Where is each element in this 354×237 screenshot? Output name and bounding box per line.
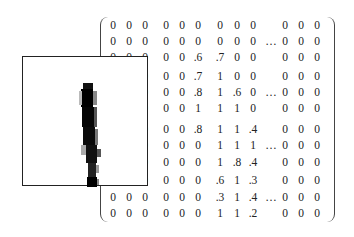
- digit-pixel: [81, 145, 86, 155]
- matrix-cell: 0: [310, 174, 324, 186]
- matrix-cell: 0: [278, 35, 292, 47]
- matrix-cell: 0: [310, 191, 324, 203]
- matrix-cell: 0: [310, 35, 324, 47]
- matrix-cell: 0: [159, 86, 173, 98]
- matrix-cell: 0: [278, 191, 292, 203]
- digit-pixel: [81, 89, 93, 107]
- matrix-ellipsis: …: [264, 139, 278, 151]
- matrix-cell: 0: [230, 70, 244, 82]
- matrix-cell: 0: [191, 35, 205, 47]
- matrix-cell: 0: [294, 156, 308, 168]
- matrix-right-bracket: [326, 17, 335, 222]
- matrix-cell: 0: [310, 207, 324, 219]
- digit-pixel: [97, 179, 99, 185]
- matrix-cell: 0: [278, 51, 292, 63]
- matrix-cell: 1: [246, 139, 260, 151]
- matrix-cell: 0: [191, 191, 205, 203]
- matrix-cell: 0: [175, 86, 189, 98]
- digit-image: [23, 57, 147, 185]
- matrix-cell: 0: [159, 102, 173, 114]
- matrix-cell: 1: [230, 123, 244, 135]
- matrix-cell: .8: [230, 156, 244, 168]
- matrix-cell: 1: [230, 174, 244, 186]
- digit-pixel: [88, 163, 96, 177]
- matrix-cell: 0: [294, 191, 308, 203]
- matrix-cell: 0: [310, 156, 324, 168]
- digit-pixel: [83, 127, 95, 145]
- matrix-cell: .7: [191, 70, 205, 82]
- matrix-cell: 0: [278, 174, 292, 186]
- matrix-cell: 1: [213, 86, 227, 98]
- matrix-cell: 0: [191, 139, 205, 151]
- matrix-ellipsis: …: [264, 86, 278, 98]
- matrix-cell: 0: [138, 19, 152, 31]
- matrix-cell: 0: [310, 102, 324, 114]
- matrix-cell: 0: [159, 174, 173, 186]
- matrix-cell: 0: [191, 207, 205, 219]
- matrix-cell: 0: [294, 51, 308, 63]
- matrix-cell: 0: [175, 191, 189, 203]
- matrix-cell: 0: [310, 70, 324, 82]
- matrix-cell: 0: [175, 35, 189, 47]
- matrix-cell: 1: [230, 191, 244, 203]
- matrix-cell: 0: [278, 139, 292, 151]
- matrix-cell: 1: [230, 102, 244, 114]
- matrix-cell: .6: [191, 51, 205, 63]
- matrix-cell: .4: [246, 156, 260, 168]
- matrix-cell: 0: [138, 191, 152, 203]
- matrix-cell: .6: [230, 86, 244, 98]
- matrix-cell: 0: [159, 207, 173, 219]
- matrix-cell: 1: [213, 102, 227, 114]
- matrix-cell: 1: [213, 139, 227, 151]
- matrix-cell: 0: [310, 19, 324, 31]
- matrix-cell: 0: [122, 207, 136, 219]
- matrix-cell: 0: [230, 35, 244, 47]
- matrix-cell: 0: [230, 19, 244, 31]
- matrix-cell: 0: [278, 156, 292, 168]
- matrix-cell: 0: [294, 123, 308, 135]
- matrix-cell: 0: [159, 70, 173, 82]
- matrix-cell: 0: [246, 19, 260, 31]
- matrix-cell: 0: [294, 102, 308, 114]
- matrix-cell: 1: [213, 70, 227, 82]
- matrix-cell: 0: [246, 70, 260, 82]
- digit-pixel: [82, 107, 94, 127]
- matrix-cell: 0: [294, 86, 308, 98]
- matrix-cell: 0: [246, 86, 260, 98]
- matrix-cell: 1: [191, 102, 205, 114]
- matrix-cell: 0: [278, 123, 292, 135]
- matrix-cell: 0: [294, 174, 308, 186]
- matrix-cell: 0: [159, 139, 173, 151]
- matrix-ellipsis: …: [264, 191, 278, 203]
- matrix-cell: 0: [310, 139, 324, 151]
- matrix-cell: 0: [294, 19, 308, 31]
- matrix-cell: .3: [246, 174, 260, 186]
- digit-image-frame: [22, 56, 148, 186]
- digit-pixel: [87, 177, 97, 187]
- matrix-cell: 0: [191, 156, 205, 168]
- matrix-cell: 0: [230, 51, 244, 63]
- matrix-cell: 0: [213, 19, 227, 31]
- digit-pixel: [95, 129, 98, 145]
- matrix-cell: .4: [246, 191, 260, 203]
- matrix-cell: 0: [159, 51, 173, 63]
- digit-pixel: [86, 145, 97, 163]
- matrix-cell: 0: [310, 51, 324, 63]
- matrix-cell: 0: [159, 35, 173, 47]
- digit-pixel: [93, 91, 97, 105]
- matrix-cell: 0: [246, 35, 260, 47]
- matrix-cell: .8: [191, 123, 205, 135]
- matrix-cell: 0: [175, 19, 189, 31]
- matrix-cell: 0: [138, 35, 152, 47]
- matrix-cell: .7: [213, 51, 227, 63]
- matrix-cell: 0: [159, 156, 173, 168]
- matrix-cell: 0: [175, 102, 189, 114]
- digit-pixel: [94, 107, 97, 127]
- matrix-cell: 0: [246, 102, 260, 114]
- matrix-cell: .6: [213, 174, 227, 186]
- matrix-cell: .4: [246, 123, 260, 135]
- matrix-cell: 0: [175, 207, 189, 219]
- matrix-cell: .2: [246, 207, 260, 219]
- matrix-cell: .8: [191, 86, 205, 98]
- digit-pixel: [79, 91, 82, 105]
